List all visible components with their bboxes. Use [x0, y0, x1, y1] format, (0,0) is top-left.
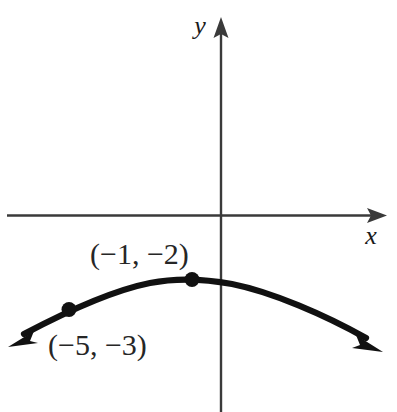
coordinate-plane-figure: y x (−1, −2) (−5, −3): [0, 0, 397, 412]
y-axis-label: y: [191, 11, 206, 40]
x-axis: [7, 208, 387, 223]
x-axis-label: x: [364, 221, 377, 250]
data-point-vertex-marker: [185, 272, 200, 287]
data-point-marker: [62, 302, 77, 317]
curve-point-label: (−5, −3): [48, 328, 147, 362]
vertex-point-label: (−1, −2): [90, 237, 189, 271]
